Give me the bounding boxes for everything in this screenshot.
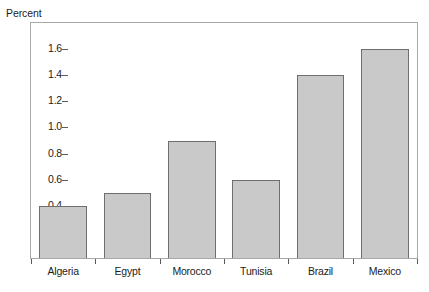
bar[interactable] xyxy=(297,75,345,258)
bar[interactable] xyxy=(104,193,152,258)
bar-slot xyxy=(95,23,159,258)
bar[interactable] xyxy=(361,49,409,258)
bar[interactable] xyxy=(168,141,216,259)
x-axis-tick-mark xyxy=(353,259,354,264)
x-axis-tick-mark xyxy=(160,259,161,264)
bar-slot xyxy=(160,23,224,258)
x-axis-tick-mark xyxy=(417,259,418,264)
y-axis-title: Percent xyxy=(6,7,42,19)
x-axis-tick-label: Mexico xyxy=(353,265,417,277)
x-axis-tick-mark xyxy=(224,259,225,264)
bar-chart: Percent 1.61.41.21.00.80.60.40.2 Algeria… xyxy=(0,0,429,292)
x-axis-tick-label: Brazil xyxy=(288,265,352,277)
x-axis-tick-mark xyxy=(31,259,32,264)
x-axis-tick-mark xyxy=(288,259,289,264)
bar-slot xyxy=(353,23,417,258)
x-axis-tick-label: Egypt xyxy=(95,265,159,277)
x-axis-labels: AlgeriaEgyptMoroccoTunisiaBrazilMexico xyxy=(31,265,417,277)
bar[interactable] xyxy=(232,180,280,258)
x-axis-tick-label: Tunisia xyxy=(224,265,288,277)
x-axis-ticks xyxy=(31,259,417,264)
x-axis-tick-mark xyxy=(95,259,96,264)
bar-slot xyxy=(224,23,288,258)
x-axis-tick-label: Algeria xyxy=(31,265,95,277)
x-axis-tick-label: Morocco xyxy=(160,265,224,277)
bar-slot xyxy=(31,23,95,258)
bar[interactable] xyxy=(39,206,87,258)
bars-container xyxy=(31,23,417,258)
bar-slot xyxy=(288,23,352,258)
